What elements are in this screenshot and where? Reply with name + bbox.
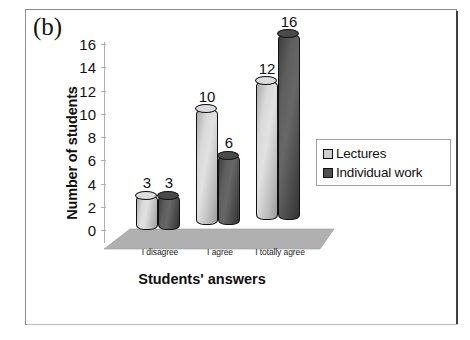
bar[interactable]: 10 [196, 109, 218, 225]
y-axis-tick-label: 4 [88, 176, 96, 191]
bar-cap [217, 151, 239, 160]
chart-legend: Lectures Individual work [316, 139, 451, 186]
y-axis-tick: 6 [101, 160, 106, 161]
bar-cap [157, 191, 179, 200]
legend-swatch-individual-work-icon [323, 168, 333, 178]
y-axis-tick: 16 [101, 44, 106, 45]
panel-label: (b) [33, 14, 62, 39]
bar-value-label: 16 [281, 14, 298, 29]
y-axis-tick-label: 14 [79, 60, 96, 75]
figure-frame-right-shadow [456, 11, 458, 325]
y-axis-tick-label: 10 [79, 106, 96, 121]
y-axis-tick-label: 0 [88, 223, 96, 238]
legend-item[interactable]: Lectures [323, 144, 450, 163]
y-axis-tick-label: 2 [88, 199, 96, 214]
figure-panel-b: (b) Number of students 0246810121416 331… [0, 0, 470, 340]
bar-value-label: 3 [165, 175, 173, 190]
y-axis-tick-label: 8 [88, 130, 96, 145]
legend-item[interactable]: Individual work [323, 163, 450, 182]
y-axis-tick-label: 6 [88, 153, 96, 168]
x-axis-category-label: I disagree [142, 247, 178, 257]
plot-area: 0246810121416 331061216 I disagreeI agre… [104, 42, 320, 243]
figure-frame-bottom-shadow [27, 324, 458, 325]
bar-cap [255, 76, 277, 85]
legend-label: Lectures [336, 147, 386, 161]
legend-swatch-lectures-icon [323, 149, 333, 159]
y-axis-line [104, 42, 105, 243]
y-axis-tick: 10 [101, 114, 106, 115]
y-axis-tick: 12 [101, 91, 106, 92]
x-axis-category-label: I totally agree [255, 247, 305, 257]
y-axis-tick: 8 [101, 137, 106, 138]
y-axis-title: Number of students [64, 53, 80, 253]
y-axis-tick-label: 12 [79, 83, 96, 98]
y-axis-tick: 14 [101, 67, 106, 68]
bar-cap [135, 191, 157, 200]
bar-value-label: 10 [199, 89, 216, 104]
bar-value-label: 3 [143, 175, 151, 190]
bar-cap [195, 104, 217, 113]
bar[interactable]: 3 [158, 195, 180, 230]
bar[interactable]: 6 [218, 155, 240, 225]
y-axis-tick: 0 [101, 230, 106, 231]
bar[interactable]: 12 [256, 81, 278, 221]
x-axis-category-label: I agree [207, 247, 233, 257]
y-axis-tick: 2 [101, 207, 106, 208]
x-axis-title: Students' answers [112, 271, 292, 287]
y-axis-tick-label: 16 [79, 37, 96, 52]
bar-value-label: 6 [225, 135, 233, 150]
bar[interactable]: 16 [278, 34, 300, 220]
legend-label: Individual work [336, 166, 422, 180]
bar[interactable]: 3 [136, 195, 158, 230]
bar-value-label: 12 [259, 61, 276, 76]
bar-cap [277, 29, 299, 38]
y-axis-tick: 4 [101, 184, 106, 185]
